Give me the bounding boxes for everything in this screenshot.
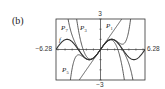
curve-label-p3: P 3 <box>79 24 88 33</box>
svg-text:5: 5 <box>67 70 70 75</box>
curve-label-p7: P 7 <box>60 24 69 33</box>
x-max-tick-label: 6.28 <box>147 45 160 52</box>
y-min-tick-label: −3 <box>96 81 104 88</box>
panel-label: (b) <box>12 15 24 27</box>
y-max-tick-label: 3 <box>98 10 102 17</box>
figure: (b) −6.28 6.28 3 −3 P 7 P 3 P 1 P 5 f <box>0 0 165 89</box>
x-min-tick-label: −6.28 <box>36 45 53 52</box>
curve-label-p5: P 5 <box>61 66 70 75</box>
svg-text:3: 3 <box>85 28 88 33</box>
svg-text:7: 7 <box>66 28 69 33</box>
svg-text:1: 1 <box>111 26 113 31</box>
curve-label-p1: P 1 <box>105 22 113 31</box>
